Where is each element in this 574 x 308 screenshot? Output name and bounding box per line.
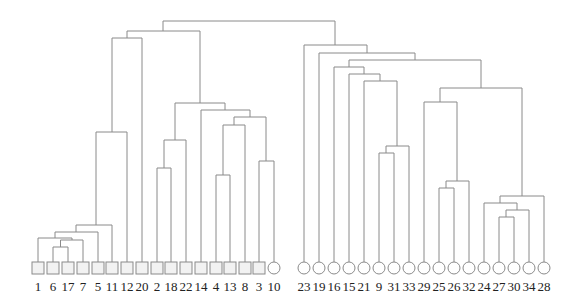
merge-branch [234,117,266,161]
leaf-square-node [239,262,251,274]
dendrogram-branches [38,21,544,262]
leaf-square-node [210,262,222,274]
merge-branch [259,161,274,262]
leaf-label: 32 [463,279,476,294]
leaf-square-node [62,262,74,274]
merge-branch [484,203,517,262]
leaf-square-node [151,262,163,274]
leaf-square-node [92,262,104,274]
leaf-label: 23 [298,279,311,294]
leaf-circle-node [343,262,355,274]
merge-branch [164,140,186,262]
dendrogram-leaves [32,262,550,274]
merge-branch [439,188,454,262]
leaf-circle-node [268,262,280,274]
leaf-circle-node [463,262,475,274]
leaf-square-node [121,262,133,274]
leaf-square-node [253,262,265,274]
leaf-square-node [224,262,236,274]
leaf-label: 3 [256,279,263,294]
leaf-square-node [32,262,44,274]
leaf-label: 28 [538,279,551,294]
merge-branch [61,240,84,262]
leaf-label: 10 [268,279,281,294]
leaf-label: 13 [224,279,237,294]
leaf-square-node [165,262,177,274]
merge-branch [506,210,529,262]
merge-branch [379,153,394,262]
leaf-circle-node [373,262,385,274]
leaf-circle-node [298,262,310,274]
leaf-circle-node [388,262,400,274]
leaf-label: 4 [213,279,220,294]
leaf-square-node [195,262,207,274]
merge-branch [499,217,514,262]
leaf-circle-node [328,262,340,274]
leaf-label: 34 [523,279,537,294]
merge-branch [446,181,469,262]
leaf-label: 15 [343,279,356,294]
leaf-label: 17 [62,279,76,294]
leaf-label: 6 [50,279,57,294]
leaf-label: 20 [136,279,149,294]
leaf-label: 2 [154,279,161,294]
leaf-circle-node [403,262,415,274]
merge-branch [424,102,457,262]
leaf-circle-node [418,262,430,274]
leaf-circle-node [538,262,550,274]
leaf-label: 1 [35,279,42,294]
merge-branch [319,53,415,262]
leaf-square-node [136,262,148,274]
merge-branch [127,31,200,103]
leaf-label: 31 [388,279,401,294]
leaf-label: 7 [80,279,87,294]
merge-branch [53,247,68,262]
leaf-labels: 1617751112202182214413831023191615219313… [35,279,551,294]
leaf-label: 8 [242,279,249,294]
merge-branch [500,196,544,262]
leaf-circle-node [358,262,370,274]
merge-branch [163,21,335,45]
leaf-label: 33 [403,279,416,294]
leaf-square-node [106,262,118,274]
leaf-label: 21 [358,279,371,294]
merge-branch [201,110,250,262]
dendrogram: 1617751112202182214413831023191615219313… [0,0,574,308]
leaf-label: 16 [328,279,342,294]
merge-branch [157,168,171,262]
leaf-circle-node [493,262,505,274]
leaf-square-node [180,262,192,274]
leaf-label: 27 [493,279,507,294]
leaf-square-node [77,262,89,274]
leaf-square-node [47,262,59,274]
merge-branch [304,45,367,262]
merge-branch [364,81,397,262]
leaf-label: 30 [508,279,521,294]
leaf-label: 9 [376,279,383,294]
merge-branch [216,175,230,262]
leaf-label: 22 [180,279,193,294]
leaf-label: 25 [433,279,446,294]
leaf-label: 29 [418,279,431,294]
merge-branch [175,103,225,140]
leaf-label: 5 [95,279,102,294]
merge-branch [38,238,72,262]
leaf-circle-node [448,262,460,274]
leaf-circle-node [478,262,490,274]
leaf-label: 26 [448,279,462,294]
leaf-label: 18 [165,279,178,294]
leaf-circle-node [523,262,535,274]
leaf-label: 12 [121,279,134,294]
leaf-circle-node [313,262,325,274]
merge-branch [223,125,245,262]
merge-branch [386,146,409,262]
merge-branch [440,88,522,196]
leaf-circle-node [508,262,520,274]
leaf-label: 24 [478,279,492,294]
leaf-label: 19 [313,279,326,294]
merge-branch [76,225,112,262]
leaf-label: 11 [106,279,119,294]
leaf-label: 14 [195,279,209,294]
leaf-circle-node [433,262,445,274]
